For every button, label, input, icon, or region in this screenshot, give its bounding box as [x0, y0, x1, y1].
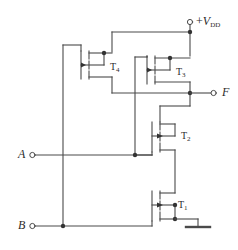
junction-b-node [61, 224, 65, 228]
device-label-t4: T4 [110, 62, 120, 72]
t3-arrow-pmos [147, 68, 152, 73]
junction-t4-bulk [102, 51, 106, 55]
input-b-terminal-node [30, 223, 35, 228]
junction-t1-bulk [173, 203, 177, 207]
supply-terminal-node [187, 19, 192, 24]
supply-label: +VDD [196, 14, 220, 29]
input-label-b: B [18, 219, 25, 231]
t4-arrow-pmos [81, 63, 86, 68]
output-label-f: F [222, 86, 229, 98]
output-terminal-node [211, 90, 216, 95]
input-label-a: A [18, 148, 25, 160]
supply-plus-sign: + [196, 14, 203, 28]
junction-a-node [133, 153, 137, 157]
input-a-terminal-node [30, 152, 35, 157]
device-label-t4-subscript: 4 [116, 66, 120, 74]
device-label-t3-subscript: 3 [182, 71, 186, 79]
device-label-t1-subscript: 1 [184, 204, 188, 212]
device-label-t1: T1 [178, 200, 188, 210]
circuit-schematic-svg [0, 0, 238, 250]
device-label-t2-subscript: 2 [187, 135, 191, 143]
device-label-t3: T3 [176, 67, 186, 77]
junction-t3-bulk [168, 56, 172, 60]
junction-vdd-rail [188, 30, 192, 34]
supply-subscript: DD [210, 21, 220, 29]
device-label-t2: T2 [181, 131, 191, 141]
circuit-diagram: +VDD F A B T4 T3 T2 T1 [0, 0, 238, 250]
